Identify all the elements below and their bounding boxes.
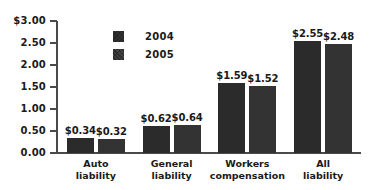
legend-swatch-2005-icon <box>113 49 124 60</box>
y-axis-tick <box>50 64 57 66</box>
bar-2004-all-liability <box>294 41 321 153</box>
legend-item-2004: 2004 <box>113 28 174 44</box>
bar-value-label: $2.48 <box>319 31 358 42</box>
y-axis-tick-label: 2.00 <box>0 59 46 70</box>
bar-chart: $3.002.502.001.501.000.500.00 $0.34$0.32… <box>0 0 373 190</box>
legend-item-2005: 2005 <box>113 46 174 62</box>
legend-label-2005: 2005 <box>145 49 174 60</box>
bar-2004-general-liability <box>143 126 170 153</box>
y-axis-tick <box>50 130 57 132</box>
bar-2005-workers-compensation <box>249 86 276 153</box>
category-label-line: All <box>277 158 369 170</box>
category-label-all-liability: Allliability <box>277 158 369 182</box>
chart-legend: 2004 2005 <box>113 28 174 64</box>
y-axis-tick-label: $3.00 <box>0 15 46 26</box>
y-axis-tick <box>50 152 57 154</box>
bar-value-label: $1.52 <box>243 73 282 84</box>
category-label-line: liability <box>277 170 369 182</box>
bar-value-label: $0.32 <box>92 126 131 137</box>
y-axis-tick-label: 1.50 <box>0 81 46 92</box>
bar-value-label: $0.64 <box>168 112 207 123</box>
bar-2005-general-liability <box>174 125 201 153</box>
plot-area: $0.34$0.32$0.62$0.64$1.59$1.52$2.55$2.48 <box>58 21 361 153</box>
bar-2004-workers-compensation <box>218 83 245 153</box>
y-axis-tick-label: 2.50 <box>0 37 46 48</box>
y-axis-tick <box>50 86 57 88</box>
y-axis-tick <box>50 42 57 44</box>
y-axis-tick-label: 1.00 <box>0 103 46 114</box>
legend-swatch-2004-icon <box>113 31 124 42</box>
legend-label-2004: 2004 <box>145 31 174 42</box>
y-axis-tick <box>50 20 57 22</box>
y-axis-tick-label: 0.00 <box>0 147 46 158</box>
y-axis-tick <box>50 108 57 110</box>
bar-2005-all-liability <box>325 44 352 153</box>
bar-2005-auto-liability <box>98 139 125 153</box>
y-axis-tick-label: 0.50 <box>0 125 46 136</box>
bar-2004-auto-liability <box>67 138 94 153</box>
